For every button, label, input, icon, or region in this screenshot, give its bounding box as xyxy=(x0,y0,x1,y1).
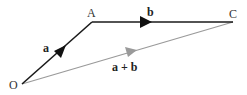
point-label-a: A xyxy=(87,6,96,20)
vector-label-b: b xyxy=(147,5,154,19)
vector-a-arrowhead-icon xyxy=(54,45,66,58)
vector-a-plus-b-arrowhead-icon xyxy=(125,47,137,57)
vector-label-a-plus-b: a + b xyxy=(112,60,138,74)
point-label-o: O xyxy=(9,78,18,92)
vector-diagram: O A C a b a + b xyxy=(0,0,247,95)
vector-label-a: a xyxy=(43,41,49,55)
point-label-c: C xyxy=(229,7,237,21)
